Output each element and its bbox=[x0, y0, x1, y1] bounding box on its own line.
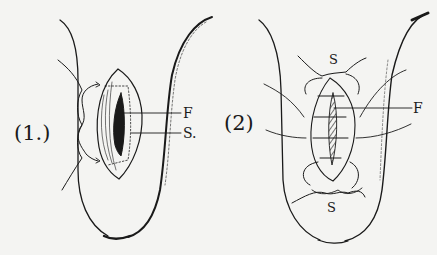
fig1-organ-outline-left bbox=[60, 20, 108, 236]
fig1-annotation-F: F bbox=[183, 105, 193, 121]
figure-2 bbox=[259, 13, 428, 243]
fig2-organ-right-shade bbox=[380, 60, 388, 180]
diagram-canvas: (1.) F S. bbox=[0, 0, 437, 255]
fig2-top-loop-left bbox=[305, 78, 322, 94]
fig2-bottom-loop-left bbox=[303, 162, 318, 185]
fig2-annotation-S-bottom: S bbox=[327, 200, 336, 215]
fig1-annotation-S: S. bbox=[183, 125, 197, 141]
fig2-thread-left-1 bbox=[264, 84, 304, 117]
fig2-organ-top-right-thick bbox=[412, 13, 428, 20]
fig2-thread-right-1 bbox=[360, 70, 406, 117]
fig2-annotation-F: F bbox=[413, 100, 423, 116]
fig2-bottom-loop-right bbox=[350, 162, 359, 188]
diagram-svg: (1.) F S. bbox=[0, 0, 437, 255]
fig2-thread-right-2 bbox=[356, 124, 411, 138]
fig2-annotation-S-top: S bbox=[329, 52, 338, 67]
fig2-organ-bottom bbox=[318, 240, 348, 243]
fig1-organ-outline-right bbox=[128, 17, 212, 237]
fig2-label: (2) bbox=[224, 111, 254, 135]
fig2-thread-left-2 bbox=[266, 130, 306, 138]
fig2-top-loop-right bbox=[346, 74, 359, 94]
fig2-organ-outline-right bbox=[345, 13, 428, 241]
fig1-organ-outline-right-shade bbox=[165, 22, 206, 185]
fig2-incision-hatched bbox=[329, 93, 337, 165]
fig1-label: (1.) bbox=[14, 121, 50, 145]
fig1-organ-bottom bbox=[104, 236, 130, 239]
